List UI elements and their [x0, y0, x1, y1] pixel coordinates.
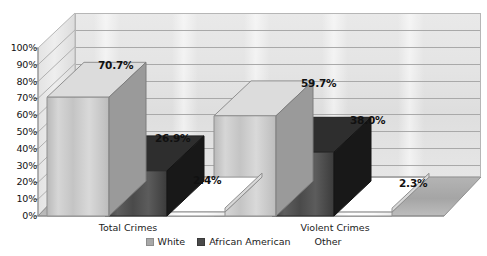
y-tick-20: 20% — [0, 177, 37, 187]
value-label-violent-african-american: 38.0% — [350, 114, 385, 126]
legend-swatch-white-icon — [146, 238, 154, 246]
y-tick-70: 70% — [0, 93, 37, 103]
chart-legend: White African American Other — [0, 236, 487, 247]
value-label-total-other: 2.4% — [193, 174, 221, 186]
bar-chart-3d: 100% 90% 80% 70% 60% 50% 40% 30% 20% 10%… — [0, 0, 487, 256]
y-tick-30: 30% — [0, 161, 37, 171]
value-label-total-white: 70.7% — [98, 59, 133, 71]
legend-label-other: Other — [314, 236, 341, 247]
y-tick-80: 80% — [0, 77, 37, 87]
bars-layer — [0, 0, 487, 256]
legend-swatch-african-american-icon — [197, 238, 205, 246]
y-tick-10: 10% — [0, 194, 37, 204]
x-label-total-crimes: Total Crimes — [68, 222, 188, 233]
value-label-total-african-american: 26.9% — [155, 132, 190, 144]
bar-total-white — [47, 62, 146, 216]
y-tick-90: 90% — [0, 60, 37, 70]
legend-item-african-american[interactable]: African American — [197, 236, 290, 247]
value-label-violent-white: 59.7% — [301, 77, 336, 89]
y-tick-40: 40% — [0, 144, 37, 154]
value-label-violent-other: 2.3% — [399, 177, 427, 189]
y-tick-100: 100% — [0, 43, 37, 53]
legend-item-white[interactable]: White — [146, 236, 186, 247]
legend-swatch-other-icon — [302, 238, 310, 246]
x-label-violent-crimes: Violent Crimes — [275, 222, 395, 233]
y-tick-0: 0% — [0, 211, 37, 221]
y-tick-60: 60% — [0, 110, 37, 120]
legend-item-other[interactable]: Other — [302, 236, 341, 247]
y-tick-50: 50% — [0, 127, 37, 137]
legend-label-white: White — [158, 236, 186, 247]
y-axis-labels: 100% 90% 80% 70% 60% 50% 40% 30% 20% 10%… — [0, 0, 37, 256]
legend-label-african-american: African American — [209, 236, 290, 247]
